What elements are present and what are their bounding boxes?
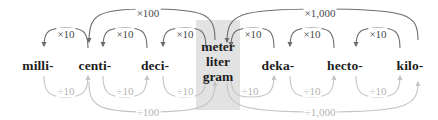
metric-prefix-diagram: milli- centi- deci- meter liter gram dek… [0, 0, 438, 120]
op-divide-centi-deci: ÷10 [115, 85, 134, 97]
op-divide-hecto-kilo: ÷10 [368, 85, 387, 97]
unit-label-deka: deka- [262, 58, 295, 74]
unit-label-deci: deci- [141, 58, 169, 74]
base-unit-meter: meter [201, 39, 235, 54]
op-divide-deci-base: ÷10 [175, 85, 194, 97]
op-divide-deka-hecto: ÷10 [302, 85, 321, 97]
op-multiply-centi-milli: ×10 [56, 28, 75, 40]
op-multiply-deci-centi: ×10 [115, 28, 134, 40]
op-multiply-base-centi-100: ×100 [136, 7, 161, 19]
base-unit-gram: gram [201, 69, 235, 84]
op-divide-base-deka: ÷10 [240, 85, 259, 97]
base-unit-stack: meter liter gram [201, 39, 235, 84]
op-multiply-hecto-deka: ×10 [302, 28, 321, 40]
op-divide-base-kilo-1000: ÷1,000 [304, 106, 337, 118]
op-multiply-kilo-hecto: ×10 [368, 28, 387, 40]
op-multiply-base-deci: ×10 [175, 28, 194, 40]
op-multiply-kilo-base-1000: ×1,000 [304, 7, 337, 19]
op-divide-milli-centi: ÷10 [56, 85, 75, 97]
unit-label-milli: milli- [22, 58, 53, 74]
unit-label-kilo: kilo- [397, 58, 424, 74]
unit-label-hecto: hecto- [327, 58, 363, 74]
unit-label-centi: centi- [79, 58, 112, 74]
op-multiply-deka-base: ×10 [243, 28, 262, 40]
base-unit-liter: liter [201, 54, 235, 69]
op-divide-centi-base-100: ÷100 [136, 106, 161, 118]
